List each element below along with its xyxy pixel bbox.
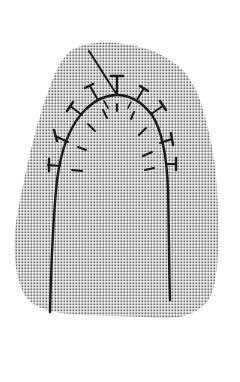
diagram-canvas: Line illustration of an arch-shaped sutu… [0, 0, 240, 382]
suture-diagram [0, 0, 240, 382]
